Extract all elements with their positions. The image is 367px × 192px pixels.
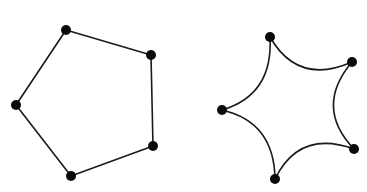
vertex-node bbox=[347, 57, 357, 67]
pentagon-nodes bbox=[11, 25, 158, 181]
vertex-node bbox=[265, 32, 275, 42]
diagram-canvas bbox=[0, 0, 367, 192]
star-edges bbox=[222, 37, 354, 179]
vertex-node bbox=[148, 141, 158, 151]
pentagon-edges bbox=[16, 30, 153, 176]
vertex-node bbox=[61, 25, 71, 35]
vertex-node bbox=[146, 50, 156, 60]
vertex-node bbox=[217, 105, 227, 115]
vertex-node bbox=[270, 174, 280, 184]
curved-star-graph bbox=[217, 32, 359, 184]
vertex-node bbox=[66, 171, 76, 181]
vertex-node bbox=[11, 100, 21, 110]
pentagon-graph bbox=[11, 25, 158, 181]
star-nodes bbox=[217, 32, 359, 184]
vertex-node bbox=[349, 144, 359, 154]
